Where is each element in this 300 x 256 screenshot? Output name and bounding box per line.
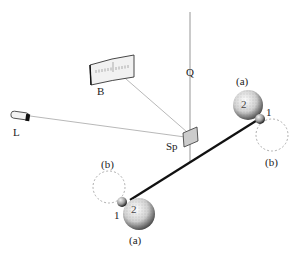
light-ray-incident [30,116,185,137]
small-ball-bottom [117,197,127,207]
large-ball-bottom [123,198,155,230]
cavendish-diagram: Q B L Sp (a) [0,0,300,256]
small-ball-bottom-number: 1 [114,209,120,221]
lamp [11,111,31,122]
small-ball-top-number: 1 [266,106,272,118]
large-ball-bottom-number: 2 [131,203,137,215]
lamp-label: L [13,126,20,138]
large-ball-top-number: 2 [241,98,247,110]
small-ball-top [255,114,265,124]
position-a-bottom-label: (a) [129,234,142,247]
position-b-top-label: (b) [265,156,278,169]
scale-label: B [97,85,104,97]
mirror [183,127,198,147]
mirror-label: Sp [166,140,178,152]
position-a-top-label: (a) [236,75,249,88]
fiber-label: Q [186,66,194,78]
light-ray-reflected [118,72,187,132]
position-b-bottom-label: (b) [101,158,114,171]
